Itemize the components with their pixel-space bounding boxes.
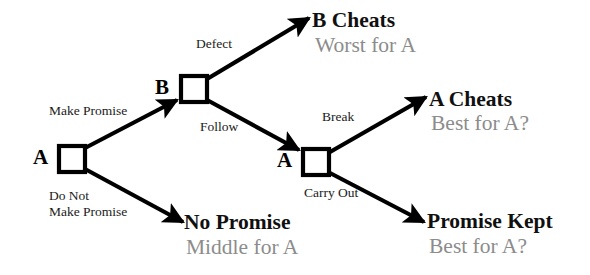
node-b-label: B [155,77,169,98]
edge-label-do-not-make-promise-line1: Do Not [49,188,169,204]
edge-label-make-promise: Make Promise [49,104,127,118]
outcome-promise-kept-name: Promise Kept [427,211,553,233]
node-a-second-label: A [277,150,292,171]
edge-label-carry-out: Carry Out [304,186,358,200]
edge-label-defect: Defect [196,37,232,51]
outcome-no-promise-name: No Promise [184,212,290,234]
outcome-b-cheats-evaluation: Worst for A [315,35,416,57]
edge-label-do-not-make-promise: Do Not Make Promise [49,188,169,220]
outcome-b-cheats-name: B Cheats [312,10,395,32]
node-a-root-label: A [33,147,48,168]
outcome-promise-kept-evaluation: Best for A? [429,236,527,258]
decision-tree-diagram: A B A Make Promise Do Not Make Promise D… [0,0,590,275]
node-a-root-square [59,146,85,172]
outcome-a-cheats-name: A Cheats [429,89,512,111]
node-a-second-square [303,149,329,175]
node-b-square [181,76,207,102]
outcome-no-promise-evaluation: Middle for A [186,237,298,259]
edge-label-break: Break [322,110,354,124]
outcome-a-cheats-evaluation: Best for A? [431,113,529,135]
edge-label-do-not-make-promise-line2: Make Promise [49,204,169,220]
edge-label-follow: Follow [200,120,238,134]
edge-break-line [330,97,426,152]
